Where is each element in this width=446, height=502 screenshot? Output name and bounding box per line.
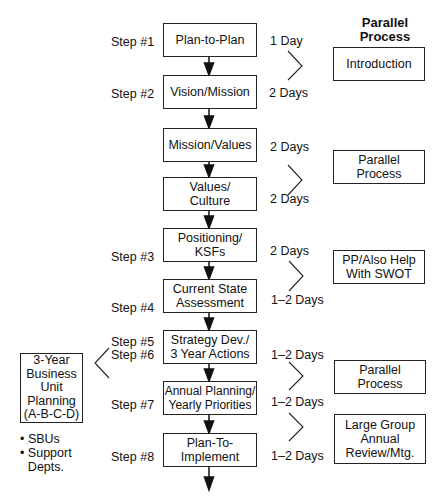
duration-2: 2 Days — [269, 86, 308, 100]
duration-3: 2 Days — [270, 140, 309, 154]
step-box-plan-to-implement: Plan-To- Implement — [163, 433, 257, 467]
step-box-annual-planning: Annual Planning/ Yearly Priorities — [163, 381, 257, 415]
duration-4: 2 Days — [270, 192, 309, 206]
step-label-1: Step #1 — [111, 36, 154, 49]
parallel-box-introduction: Introduction — [333, 47, 425, 81]
duration-6: 1–2 Days — [271, 293, 324, 307]
step-box-vision-mission: Vision/Mission — [163, 75, 257, 109]
step-box-strategy-dev: Strategy Dev./ 3 Year Actions — [163, 330, 257, 364]
step-label-4: Step #4 — [111, 302, 154, 315]
parallel-box-parallel-process-2: Parallel Process — [334, 360, 426, 394]
duration-9: 1–2 Days — [271, 449, 324, 463]
bullet-item: • Support Depts. — [20, 446, 72, 474]
bullet-icon: • — [20, 432, 24, 446]
step-box-mission-values: Mission/Values — [163, 128, 257, 162]
step-box-current-state: Current State Assessment — [163, 279, 257, 313]
bullet-icon: • — [20, 446, 28, 474]
duration-5: 2 Days — [270, 244, 309, 258]
bullet-item: • SBUs — [20, 432, 72, 446]
step-label-8: Step #8 — [111, 451, 154, 464]
step-box-positioning-ksfs: Positioning/ KSFs — [163, 228, 257, 262]
step-label-2: Step #2 — [111, 88, 154, 101]
step-label-3: Step #3 — [111, 251, 154, 264]
duration-7: 1–2 Days — [271, 348, 324, 362]
duration-8: 1–2 Days — [271, 395, 324, 409]
business-unit-planning-box: 3-Year Business Unit Planning (A-B-C-D) — [20, 353, 83, 423]
parallel-box-large-group-review: Large Group Annual Review/Mtg. — [334, 414, 426, 464]
step-label-7: Step #7 — [111, 399, 154, 412]
duration-1: 1 Day — [270, 34, 303, 48]
parallel-process-heading: Parallel Process — [350, 16, 420, 44]
business-unit-bullets: • SBUs • Support Depts. — [20, 432, 72, 474]
step-box-plan-to-plan: Plan-to-Plan — [163, 23, 257, 57]
parallel-box-swot: PP/Also Help With SWOT — [333, 250, 425, 284]
down-arrows — [205, 56, 214, 490]
step-label-5-6: Step #5 Step #6 — [111, 336, 154, 362]
step-box-values-culture: Values/ Culture — [163, 177, 257, 211]
parallel-box-parallel-process-1: Parallel Process — [333, 150, 425, 184]
